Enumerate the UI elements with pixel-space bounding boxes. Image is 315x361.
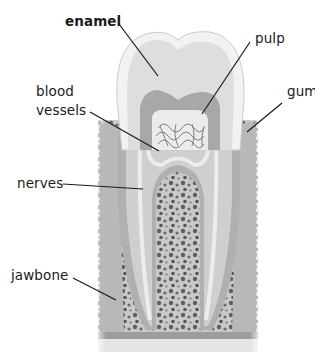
label-enamel: enamel [65, 13, 121, 29]
label-nerves: nerves [17, 175, 63, 191]
label-vessels: vessels [36, 102, 86, 118]
crown [117, 32, 244, 150]
root [118, 125, 240, 330]
label-blood: blood [36, 83, 74, 99]
label-jawbone: jawbone [11, 267, 68, 283]
label-gum: gum [287, 83, 315, 99]
label-pulp: pulp [255, 30, 285, 46]
gum-leader [247, 103, 282, 132]
tooth-diagram: enamel pulp blood vessels gum nerves jaw… [0, 0, 315, 361]
